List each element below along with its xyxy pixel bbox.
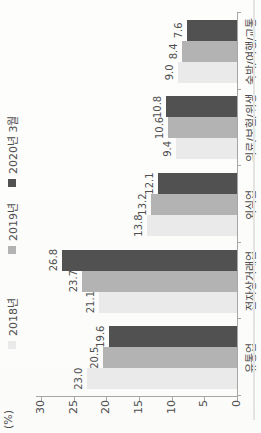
bar-2018년 [176, 138, 237, 159]
y-tick-label: 25 [67, 400, 80, 431]
bar-value-label: 7.6 [173, 13, 184, 47]
y-axis-line [36, 396, 238, 397]
bar-2019년 [82, 271, 237, 292]
x-tick [238, 89, 241, 90]
grouped-bar-chart: (%) 2018년2019년2020년 3월 302520151050유통업23… [0, 0, 261, 433]
rotated-chart-page: (%) 2018년2019년2020년 3월 302520151050유통업23… [0, 0, 261, 433]
bar-2019년 [103, 347, 237, 368]
y-tick-label: 20 [99, 400, 112, 431]
plot-area: 302520151050유통업23.020.519.6전자상거래업21.123.… [0, 0, 261, 433]
category-label: 의료/보험/위생 [242, 90, 258, 167]
bar-2018년 [147, 215, 237, 236]
y-tick-label: 5 [197, 400, 210, 431]
x-tick [238, 395, 241, 396]
y-tick-label: 10 [165, 400, 178, 431]
x-tick [238, 12, 241, 13]
y-tick-label: 15 [132, 400, 145, 431]
bar-2019년 [151, 194, 237, 215]
bar-value-label: 26.8 [48, 243, 59, 277]
bar-value-label: 10.8 [152, 90, 163, 124]
y-tick-label: 0 [230, 400, 243, 431]
x-tick [238, 165, 241, 166]
y-tick-label: 30 [34, 400, 47, 431]
bar-2018년 [178, 62, 237, 83]
bar-value-label: 23.0 [73, 362, 84, 396]
bar-2019년 [168, 117, 237, 138]
bar-2020년 3월 [109, 326, 237, 347]
category-label: 숙박/여행/교통 [242, 13, 258, 90]
x-tick [238, 242, 241, 243]
bar-2020년 3월 [62, 250, 237, 271]
x-tick [238, 318, 241, 319]
bar-value-label: 19.6 [95, 320, 106, 354]
x-axis-line [237, 12, 238, 397]
bar-2020년 3월 [158, 173, 237, 194]
category-label: 전자상거래업 [242, 243, 258, 320]
photo-edge-line [253, 0, 255, 420]
category-label: 외식업 [242, 166, 258, 243]
bar-2018년 [99, 292, 237, 313]
bar-value-label: 12.1 [144, 167, 155, 201]
bar-2020년 3월 [166, 96, 237, 117]
bar-2018년 [87, 368, 237, 389]
bar-2020년 3월 [187, 20, 237, 41]
bar-2019년 [182, 41, 237, 62]
category-label: 유통업 [242, 319, 258, 396]
